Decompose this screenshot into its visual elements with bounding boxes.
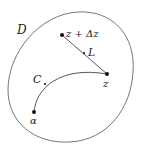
label-region-D: D [16, 23, 27, 37]
curve-C [34, 72, 107, 112]
label-C: C [33, 73, 42, 86]
complex-region-diagram: D z + Δz L z C α [0, 0, 141, 153]
label-alpha: α [30, 115, 37, 126]
label-z: z [102, 78, 109, 89]
point-C-mid [44, 83, 46, 85]
point-z [105, 72, 109, 76]
point-L-mid [83, 52, 85, 54]
point-alpha [32, 110, 36, 114]
segment-L [62, 35, 107, 74]
label-z-plus-dz: z + Δz [65, 28, 99, 39]
label-L: L [87, 46, 95, 59]
point-z-plus-dz [60, 33, 64, 37]
